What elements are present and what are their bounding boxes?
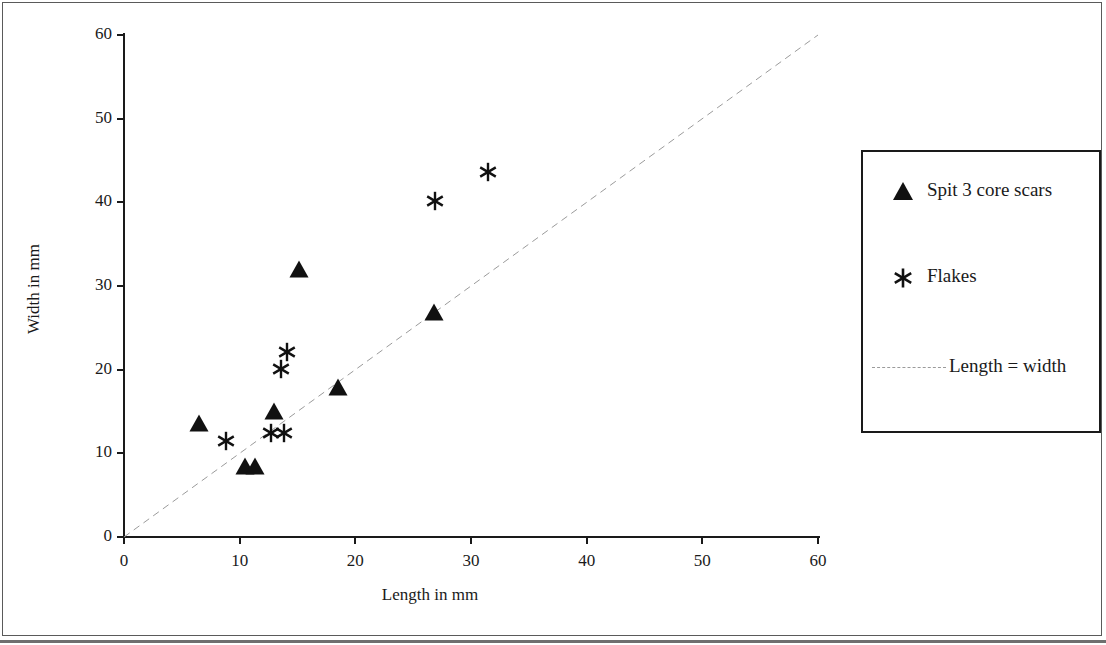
data-point-triangle-6 (424, 303, 444, 321)
x-tick-20 (354, 537, 356, 544)
data-point-asterisk-4 (277, 342, 297, 362)
y-tick-10 (117, 452, 124, 454)
y-tick-40 (117, 201, 124, 203)
data-point-asterisk-0 (216, 431, 236, 451)
x-axis-title: Length in mm (0, 585, 860, 605)
data-point-triangle-4 (289, 260, 309, 278)
y-axis-title: Width in mm (24, 189, 44, 389)
x-tick-label-50: 50 (682, 551, 722, 571)
data-point-triangle-3 (264, 402, 284, 420)
legend-entry-flakes: Flakes (879, 264, 977, 289)
data-point-triangle-0 (189, 414, 209, 432)
x-tick-10 (239, 537, 241, 544)
legend-label-0: Spit 3 core scars (927, 178, 1052, 202)
y-tick-label-0: 0 (72, 526, 112, 546)
dashed-line-icon (869, 364, 949, 368)
x-tick-label-0: 0 (104, 551, 144, 571)
x-tick-label-40: 40 (567, 551, 607, 571)
page-bottom-rule (0, 640, 1106, 643)
triangle-icon (879, 178, 927, 201)
data-point-triangle-5 (328, 378, 348, 396)
data-point-asterisk-2 (274, 423, 294, 443)
x-tick-0 (123, 537, 125, 544)
x-tick-label-10: 10 (220, 551, 260, 571)
data-point-triangle-2 (245, 457, 265, 475)
x-tick-60 (817, 537, 819, 544)
y-tick-label-60: 60 (72, 24, 112, 44)
y-tick-label-10: 10 (72, 442, 112, 462)
x-tick-50 (701, 537, 703, 544)
legend-entry-length-equals-width: Length = width (869, 354, 1066, 378)
legend-label-1: Flakes (927, 264, 977, 288)
legend-label-2: Length = width (949, 354, 1066, 378)
chart-legend: Spit 3 core scars Flakes Length = width (861, 150, 1101, 433)
y-tick-label-40: 40 (72, 191, 112, 211)
x-tick-label-60: 60 (798, 551, 838, 571)
y-tick-30 (117, 285, 124, 287)
x-tick-30 (470, 537, 472, 544)
y-tick-60 (117, 34, 124, 36)
y-tick-label-50: 50 (72, 108, 112, 128)
scatter-chart: 0102030405060 0102030405060 Length in mm… (0, 0, 860, 620)
y-tick-50 (117, 118, 124, 120)
y-tick-label-20: 20 (72, 359, 112, 379)
figure-page: 0102030405060 0102030405060 Length in mm… (0, 0, 1106, 645)
legend-entry-spit-3-core-scars: Spit 3 core scars (879, 178, 1052, 202)
y-tick-20 (117, 369, 124, 371)
data-point-asterisk-6 (478, 162, 498, 182)
x-tick-40 (586, 537, 588, 544)
x-tick-label-30: 30 (451, 551, 491, 571)
x-tick-label-20: 20 (335, 551, 375, 571)
y-tick-label-30: 30 (72, 275, 112, 295)
data-point-asterisk-5 (425, 191, 445, 211)
asterisk-icon (879, 264, 927, 289)
